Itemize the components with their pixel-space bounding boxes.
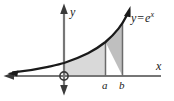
x-axis-label: x [156, 60, 161, 72]
equation-equals-sign: = [136, 11, 145, 25]
area-a-to-b-region [106, 23, 123, 76]
exponential-area-figure: y x a b y=ex [0, 0, 174, 101]
tick-label-a: a [102, 80, 108, 91]
equation-exponent: x [150, 10, 154, 19]
tick-label-b: b [119, 80, 125, 91]
y-axis [60, 4, 68, 96]
curve-equation-label: y=ex [131, 11, 154, 24]
y-axis-label: y [70, 6, 75, 18]
